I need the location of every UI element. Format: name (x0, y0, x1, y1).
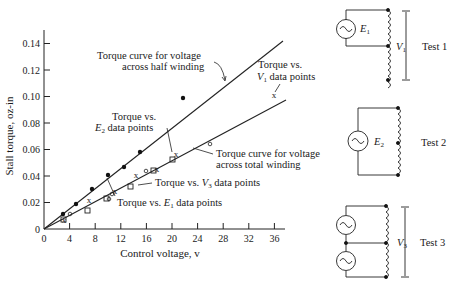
annotation-e2: E2 data points (94, 122, 153, 135)
annotation-v3: Torque vs. V3 data points (155, 177, 260, 190)
y-tick: 0.04 (23, 171, 41, 182)
figure: 0 0.02 0.04 0.06 0.08 0.10 0.12 0.14 0 4… (0, 0, 462, 290)
svg-text:x: x (272, 90, 277, 100)
svg-text:x: x (174, 149, 179, 159)
x-tick: 20 (167, 233, 177, 244)
annotation-v1: Torque vs. (258, 59, 302, 70)
x-tick: 28 (218, 233, 228, 244)
x-tick: 8 (93, 233, 98, 244)
svg-text:x: x (62, 215, 67, 225)
svg-text:x: x (87, 195, 92, 205)
v3-label: V3 (397, 237, 407, 250)
test-2-label: Test 2 (421, 137, 446, 148)
annotation-e2: Torque vs. (112, 111, 156, 122)
y-tick: 0.14 (23, 38, 41, 49)
e1-label: E1 (359, 23, 370, 36)
y-tick: 0.08 (23, 118, 41, 129)
e2-label: E2 (373, 136, 384, 149)
x-tick: 32 (244, 233, 254, 244)
x-axis-label: Control voltage, v (120, 247, 200, 259)
annotation-half-winding: Torque curve for voltage (97, 50, 201, 61)
annotation-total-winding: Torque curve for voltage (216, 148, 320, 159)
annotation-half-winding: across half winding (122, 61, 205, 72)
y-tick: 0 (35, 224, 40, 235)
y-tick: 0.06 (23, 144, 41, 155)
annotation-v1: V1 data points (257, 71, 315, 84)
x-tick: 12 (116, 233, 126, 244)
y-tick: 0.12 (23, 65, 41, 76)
y-tick: 0.02 (23, 197, 41, 208)
annotation-e1: Torque vs. E1 data points (117, 197, 222, 210)
winding-icon (388, 10, 391, 88)
x-tick: 36 (269, 233, 279, 244)
svg-text:x: x (134, 170, 139, 180)
svg-text:x: x (113, 186, 118, 196)
x-tick-labels: 0 4 8 12 16 20 24 28 32 36 (42, 233, 280, 244)
v1-label: V1 (396, 41, 406, 54)
x-tick: 24 (193, 233, 203, 244)
y-axis-label: Stall torque, oz-in (3, 96, 15, 176)
test-1-label: Test 1 (422, 41, 447, 52)
x-tick: 4 (67, 233, 72, 244)
annotation-total-winding: across total winding (216, 159, 301, 170)
test-3-label: Test 3 (420, 237, 445, 248)
y-tick-labels: 0 0.02 0.04 0.06 0.08 0.10 0.12 0.14 (23, 38, 41, 235)
y-tick: 0.10 (23, 91, 41, 102)
svg-text:x: x (155, 164, 160, 174)
x-tick: 0 (42, 233, 47, 244)
x-tick: 16 (141, 233, 151, 244)
